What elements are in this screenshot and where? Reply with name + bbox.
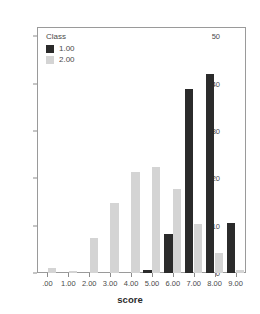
- legend-item-label: 2.00: [59, 55, 75, 64]
- y-tick-mark: [33, 273, 37, 274]
- bar: [143, 270, 151, 273]
- x-tick-label: 1.00: [61, 279, 76, 288]
- y-tick-mark: [33, 178, 37, 179]
- x-tick-mark: [131, 273, 132, 277]
- y-tick-mark: [33, 83, 37, 84]
- legend: Class 1.002.00: [46, 32, 108, 66]
- y-tick-mark: [33, 131, 37, 132]
- x-tick-mark: [173, 273, 174, 277]
- bar: [194, 224, 202, 273]
- bar: [131, 172, 139, 273]
- bar: [173, 189, 181, 273]
- x-tick-label: 4.00: [124, 279, 139, 288]
- x-tick-mark: [194, 273, 195, 277]
- legend-item-label: 1.00: [59, 44, 75, 53]
- y-tick-mark: [33, 225, 37, 226]
- x-tick-mark: [89, 273, 90, 277]
- legend-title: Class: [46, 32, 108, 41]
- x-tick-mark: [215, 273, 216, 277]
- bar: [236, 270, 244, 273]
- legend-item: 2.00: [46, 55, 108, 64]
- bar: [69, 271, 77, 273]
- bar: [90, 238, 98, 273]
- x-tick-label: 2.00: [82, 279, 97, 288]
- x-tick-mark: [236, 273, 237, 277]
- x-tick-mark: [110, 273, 111, 277]
- x-tick-mark: [47, 273, 48, 277]
- bar: [152, 167, 160, 273]
- bar: [227, 223, 235, 273]
- y-tick-label: 50: [212, 32, 220, 41]
- x-tick-label: 3.00: [103, 279, 118, 288]
- bar-chart: 01020304050 .001.002.003.004.005.006.007…: [0, 0, 260, 314]
- x-tick-mark: [152, 273, 153, 277]
- legend-item: 1.00: [46, 44, 108, 53]
- x-tick-label: 6.00: [166, 279, 181, 288]
- y-tick-mark: [33, 36, 37, 37]
- bar: [206, 74, 214, 273]
- x-tick-label: 8.00: [207, 279, 222, 288]
- bar: [185, 89, 193, 274]
- x-tick-mark: [68, 273, 69, 277]
- legend-swatch-icon: [46, 56, 54, 64]
- x-tick-label: 9.00: [228, 279, 243, 288]
- x-tick-label: .00: [42, 279, 52, 288]
- bar: [48, 268, 56, 273]
- bar: [110, 203, 118, 273]
- bar: [164, 234, 172, 273]
- x-axis-title: score: [0, 294, 260, 305]
- x-tick-label: 5.00: [145, 279, 160, 288]
- x-tick-label: 7.00: [186, 279, 201, 288]
- legend-swatch-icon: [46, 45, 54, 53]
- legend-entries: 1.002.00: [46, 44, 108, 64]
- bar: [215, 253, 223, 273]
